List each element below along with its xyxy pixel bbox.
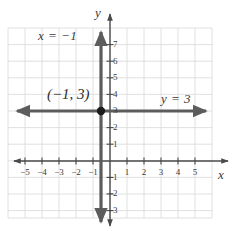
point-minus1-3 (97, 107, 105, 115)
y-tick-label: −3 (108, 206, 122, 215)
x-tick-label: 2 (139, 168, 149, 177)
y-tick-label: 3 (113, 106, 123, 115)
y-tick-label: −2 (108, 189, 122, 198)
y-tick-label: 5 (113, 73, 123, 82)
annotation-x-equals-minus-1: x = −1 (38, 29, 77, 42)
annotation-y-equals-3: y = 3 (161, 92, 191, 105)
y-tick-label: 7 (113, 40, 123, 49)
annotation-point-coordinates: (−1, 3) (47, 87, 90, 102)
y-tick-label: 1 (113, 140, 123, 149)
x-tick-label: 3 (156, 168, 166, 177)
y-tick-label: 6 (113, 57, 123, 66)
y-tick-label: 2 (113, 123, 123, 132)
x-tick-label: 4 (173, 168, 183, 177)
y-axis-label: y (95, 6, 101, 19)
x-tick-label: 1 (122, 168, 132, 177)
x-axis-label: x (218, 168, 224, 181)
y-tick-label: 4 (113, 90, 123, 99)
y-tick-label: −1 (108, 173, 122, 182)
x-tick-label: −1 (83, 168, 103, 177)
x-tick-label: 5 (190, 168, 200, 177)
